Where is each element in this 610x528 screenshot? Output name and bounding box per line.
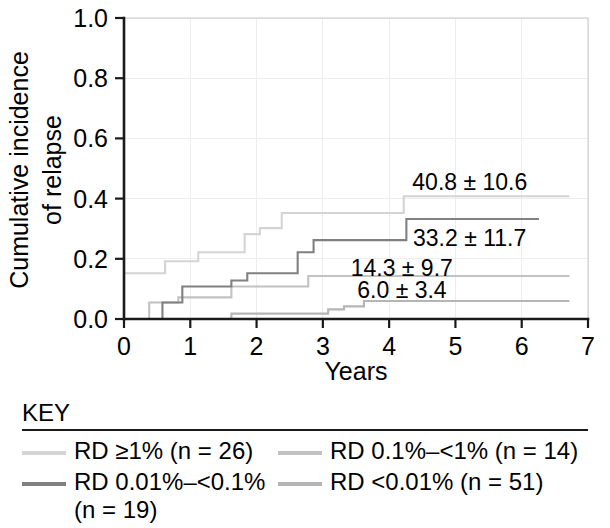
legend-swatch-line-icon — [278, 451, 322, 455]
series-endpoint-label-0: 40.8 ± 10.6 — [412, 169, 527, 195]
legend-swatch-line-icon — [278, 482, 322, 486]
legend-item-label: RD <0.01% (n = 51) — [330, 468, 543, 496]
y-tick-label: 0.8 — [73, 64, 108, 92]
y-axis-title-line-1: Cumulative incidence — [5, 51, 33, 289]
x-tick-label: 2 — [250, 332, 264, 360]
step-curve-1 — [124, 276, 569, 319]
y-tick-label: 0.2 — [73, 245, 108, 273]
cumulative-incidence-chart: 0.00.20.40.60.81.0 01234567 40.8 ± 10.61… — [0, 0, 610, 392]
x-tick-label: 1 — [183, 332, 197, 360]
legend-title: KEY — [22, 400, 588, 427]
y-tick-labels: 0.00.20.40.60.81.0 — [73, 4, 108, 333]
y-tick-label: 0.0 — [73, 305, 108, 333]
legend: KEY RD ≥1% (n = 26) RD 0.1%–<1% (n = 14)… — [22, 400, 588, 524]
x-tick-label: 7 — [581, 332, 595, 360]
legend-item-label: RD 0.01%–<0.1% (n = 19) — [74, 468, 265, 525]
y-tick-label: 0.6 — [73, 124, 108, 152]
y-tick-label: 1.0 — [73, 4, 108, 32]
x-tick-label: 3 — [316, 332, 330, 360]
legend-swatch-line-icon — [22, 482, 66, 486]
legend-item-label: RD 0.1%–<1% (n = 14) — [330, 437, 578, 465]
series-endpoint-label-2: 33.2 ± 11.7 — [413, 225, 526, 251]
cumulative-incidence-figure: 0.00.20.40.60.81.0 01234567 40.8 ± 10.61… — [0, 0, 610, 528]
step-curve-3 — [124, 301, 569, 319]
y-axis-title-line-2: of relapse — [38, 115, 66, 225]
x-axis-title: Years — [324, 357, 387, 385]
x-tick-labels: 01234567 — [117, 332, 595, 360]
legend-items: RD ≥1% (n = 26) RD 0.1%–<1% (n = 14) RD … — [22, 437, 588, 524]
x-tick-label: 0 — [117, 332, 131, 360]
series-endpoint-labels: 40.8 ± 10.614.3 ± 9.733.2 ± 11.76.0 ± 3.… — [351, 169, 528, 302]
legend-divider — [22, 429, 588, 431]
legend-item-rd-0p01-to-0p1[interactable]: RD 0.01%–<0.1% (n = 19) — [22, 468, 272, 525]
series-endpoint-label-3: 6.0 ± 3.4 — [357, 277, 447, 303]
legend-item-rd-lt-0p01[interactable]: RD <0.01% (n = 51) — [278, 468, 588, 525]
x-tick-label: 6 — [515, 332, 529, 360]
legend-swatch-line-icon — [22, 451, 66, 455]
chart-plot-area: 0.00.20.40.60.81.0 01234567 40.8 ± 10.61… — [0, 0, 610, 392]
legend-item-rd-ge-1[interactable]: RD ≥1% (n = 26) — [22, 437, 272, 465]
y-tick-label: 0.4 — [73, 185, 108, 213]
step-curves — [124, 196, 569, 319]
x-tick-label: 5 — [448, 332, 462, 360]
x-tick-label: 4 — [382, 332, 396, 360]
legend-item-label: RD ≥1% (n = 26) — [74, 437, 253, 465]
legend-item-rd-0p1-to-1[interactable]: RD 0.1%–<1% (n = 14) — [278, 437, 588, 465]
